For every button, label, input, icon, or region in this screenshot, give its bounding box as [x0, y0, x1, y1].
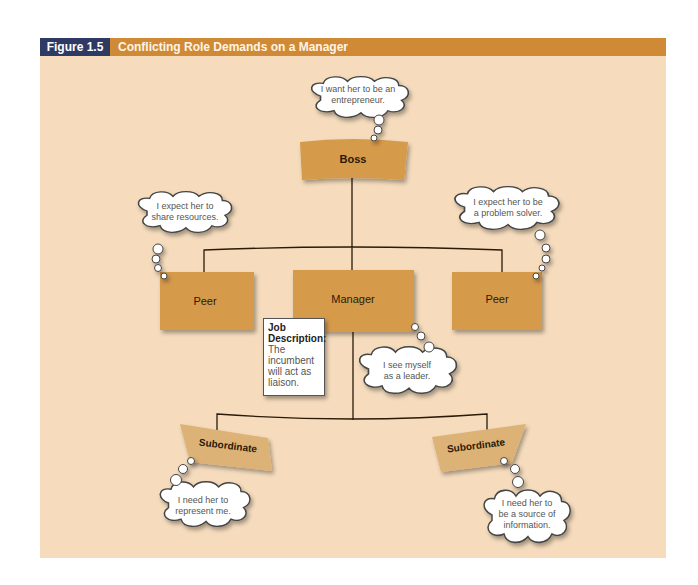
peer-right-bubble-text: I expect her to be a problem solver. — [460, 197, 556, 219]
subordinate-left-bubble-text: I need her to represent me. — [160, 495, 246, 517]
boss-bubble-text: I want her to be an entrepreneur. — [318, 84, 398, 106]
boss-label: Boss — [320, 153, 386, 165]
job-description-card: Job Description: The incumbent will act … — [263, 318, 325, 396]
subordinate-right-bubble-text: I need her to be a source of information… — [484, 498, 570, 531]
peer-left-label: Peer — [170, 295, 240, 307]
peer-right-label: Peer — [462, 293, 532, 305]
peer-left-bubble-text: I expect her to share resources. — [142, 201, 228, 223]
manager-label: Manager — [303, 293, 403, 305]
manager-bubble-text: I see myself as a leader. — [362, 360, 452, 382]
manager-thought-bubble — [360, 324, 457, 394]
